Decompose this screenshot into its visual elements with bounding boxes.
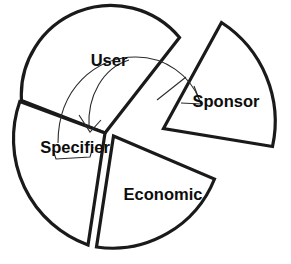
pie-label-sponsor: Sponsor: [193, 92, 260, 110]
pie-label-specifier: Specifier: [40, 138, 110, 156]
pie-label-user: User: [91, 51, 128, 69]
exploded-pie-diagram: User Sponsor Economic Specifier: [0, 0, 291, 264]
pie-segment-sponsor[interactable]: [164, 23, 276, 147]
pie-chart-svg: User Sponsor Economic Specifier: [0, 0, 291, 264]
pie-label-economic: Economic: [124, 185, 203, 203]
